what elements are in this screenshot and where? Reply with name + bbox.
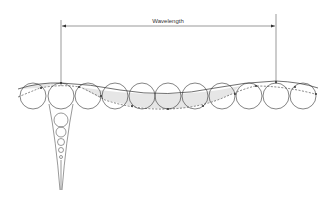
wave-orbit-diagram: Wavelength xyxy=(0,0,334,204)
orbit-circle xyxy=(48,83,74,109)
depth-orbit-circle xyxy=(58,139,65,146)
depth-orbit-circle xyxy=(54,113,68,127)
depth-orbit-circle xyxy=(59,148,64,153)
arrow-head-right-icon xyxy=(271,25,275,28)
orbit-circle xyxy=(290,83,316,109)
depth-orbit-circle xyxy=(56,127,66,137)
arrow-head-left-icon xyxy=(62,25,66,28)
wavelength-label: Wavelength xyxy=(152,18,183,24)
depth-orbit-circle xyxy=(60,156,63,159)
orbit-circle xyxy=(236,83,262,109)
